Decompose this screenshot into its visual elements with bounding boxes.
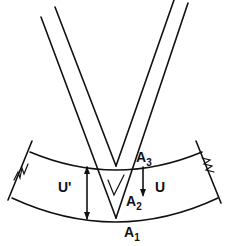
beam-top-arc	[30, 152, 202, 170]
u-arrow-down	[140, 189, 146, 197]
label-a3: A3	[136, 149, 152, 168]
label-a1: A1	[124, 224, 140, 243]
wedge-right-outer-line	[116, 3, 188, 218]
wedge-right-inner-line	[116, 0, 174, 166]
beam-bottom-arc	[12, 198, 218, 222]
label-a2: A2	[126, 193, 142, 212]
wedge-left-outer-line	[41, 17, 116, 218]
label-u: U	[155, 179, 165, 195]
right-break-line	[196, 141, 221, 203]
wedge-left-inner-line	[55, 7, 116, 166]
label-u-prime: U'	[58, 179, 71, 195]
u-prime-arrow-down	[84, 212, 90, 220]
diagram: A3 A2 A1 U U'	[0, 0, 227, 246]
inner-v-mark	[108, 175, 124, 195]
left-break-line	[8, 141, 32, 200]
